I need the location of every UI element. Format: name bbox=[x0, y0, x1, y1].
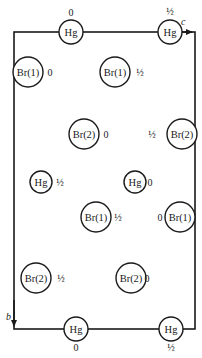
atom-label: Br(2) bbox=[73, 129, 96, 141]
atom-hg-top-1: Hg0 bbox=[59, 7, 83, 44]
atom-height-label: ½ bbox=[167, 342, 175, 353]
atom-label: Hg bbox=[165, 324, 179, 335]
atom-br1-b: Br(1)½ bbox=[100, 57, 144, 87]
atom-height-label: 0 bbox=[145, 273, 150, 284]
atom-br1-d: Br(1)0 bbox=[158, 202, 196, 232]
atom-height-label: 0 bbox=[158, 212, 163, 223]
atom-br2-d: Br(2)0 bbox=[116, 263, 150, 293]
atom-hg-bot-1: Hg0 bbox=[64, 317, 88, 353]
atom-br2-b: Br(2)½ bbox=[148, 119, 197, 149]
atom-hg-bot-2: Hg½ bbox=[159, 317, 183, 353]
atom-height-label: ½ bbox=[56, 177, 64, 188]
atom-label: Br(1) bbox=[104, 67, 127, 79]
atom-br1-c: Br(1)½ bbox=[81, 202, 122, 232]
atom-label: Hg bbox=[129, 177, 143, 188]
atom-label: Br(1) bbox=[169, 212, 192, 224]
atom-br1-a: Br(1)0 bbox=[13, 57, 53, 87]
atom-label: Br(1) bbox=[17, 67, 40, 79]
atom-height-label: 0 bbox=[148, 177, 153, 188]
atom-label: Hg bbox=[70, 324, 84, 335]
atom-height-label: ½ bbox=[57, 273, 65, 284]
atom-hg-mid-1: Hg½ bbox=[30, 171, 64, 193]
atom-height-label: 0 bbox=[69, 7, 74, 18]
atom-height-label: ½ bbox=[114, 212, 122, 223]
atom-label: Br(2) bbox=[25, 273, 48, 285]
atom-br2-a: Br(2)0 bbox=[69, 119, 109, 149]
atom-height-label: ½ bbox=[148, 129, 156, 140]
atom-height-label: 0 bbox=[48, 67, 53, 78]
atom-height-label: 0 bbox=[74, 342, 79, 353]
atoms: Hg0Hg½Br(1)0Br(1)½Br(2)0Br(2)½Hg½Hg0Br(1… bbox=[13, 6, 197, 353]
atom-label: Br(2) bbox=[120, 273, 143, 285]
atom-hg-top-2: Hg½ bbox=[158, 6, 182, 44]
atom-height-label: 0 bbox=[104, 129, 109, 140]
atom-br2-c: Br(2)½ bbox=[21, 263, 65, 293]
atom-label: Hg bbox=[35, 177, 49, 188]
crystal-structure-diagram: cb Hg0Hg½Br(1)0Br(1)½Br(2)0Br(2)½Hg½Hg0B… bbox=[0, 0, 202, 358]
atom-height-label: ½ bbox=[166, 6, 174, 17]
axis-b-label: b bbox=[6, 311, 11, 322]
atom-label: Hg bbox=[65, 27, 79, 38]
axis-c-label: c bbox=[181, 16, 186, 27]
atom-hg-mid-2: Hg0 bbox=[124, 171, 153, 193]
atom-label: Br(1) bbox=[85, 212, 108, 224]
atom-label: Br(2) bbox=[171, 129, 194, 141]
atom-height-label: ½ bbox=[136, 67, 144, 78]
atom-label: Hg bbox=[164, 27, 178, 38]
